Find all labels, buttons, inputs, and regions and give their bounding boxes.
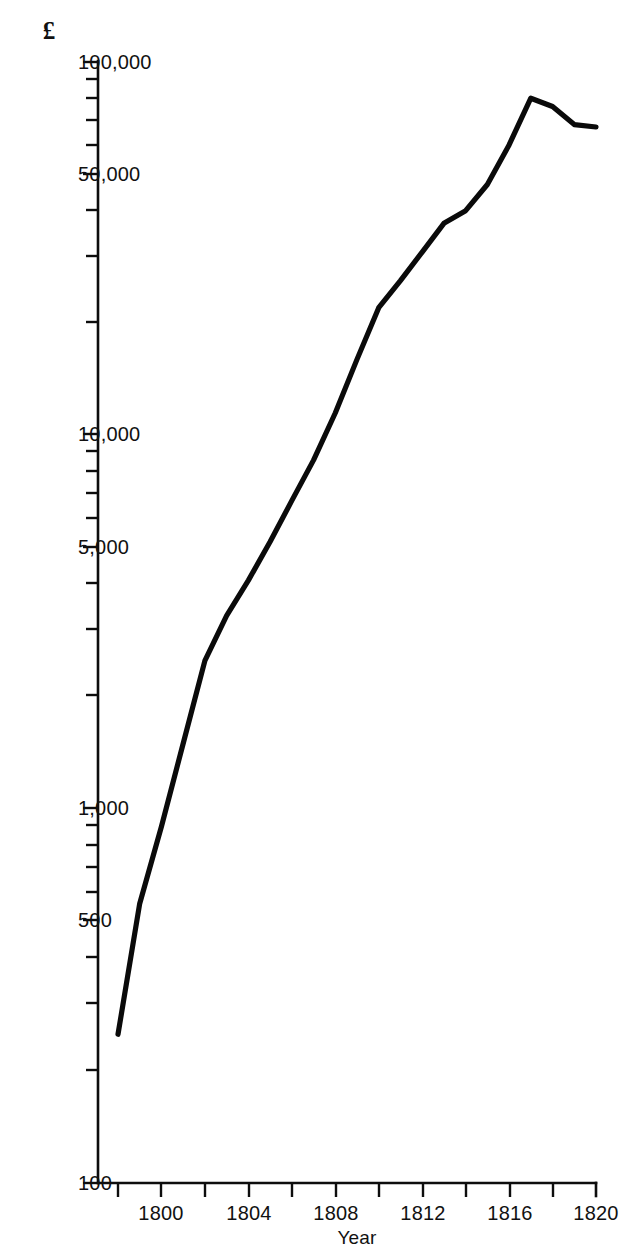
y-axis-major-ticks [83,62,98,1183]
x-tick-label-1800: 1800 [138,1202,183,1225]
x-axis-ticks [118,1183,553,1197]
y-tick-label-5000: 5,000 [78,536,129,559]
y-axis-title: £ [43,17,56,45]
x-tick-label-1812: 1812 [400,1202,445,1225]
y-tick-label-50000: 50,000 [78,163,140,186]
x-tick-label-1820: 1820 [573,1202,618,1225]
x-axis-title: Year [337,1227,376,1249]
y-tick-label-10000: 10,000 [78,423,140,446]
data-series-line [118,98,596,1034]
chart-plot-area [0,0,627,1256]
x-tick-label-1804: 1804 [226,1202,271,1225]
chart-figure: 100,000 50,000 10,000 5,000 1,000 500 10… [0,0,627,1256]
y-tick-label-1000: 1,000 [78,797,129,820]
y-tick-label-100000: 100,000 [78,51,152,74]
y-tick-label-100: 100 [78,1172,112,1195]
x-tick-label-1816: 1816 [487,1202,532,1225]
y-tick-label-500: 500 [78,909,112,932]
x-tick-label-1808: 1808 [313,1202,358,1225]
